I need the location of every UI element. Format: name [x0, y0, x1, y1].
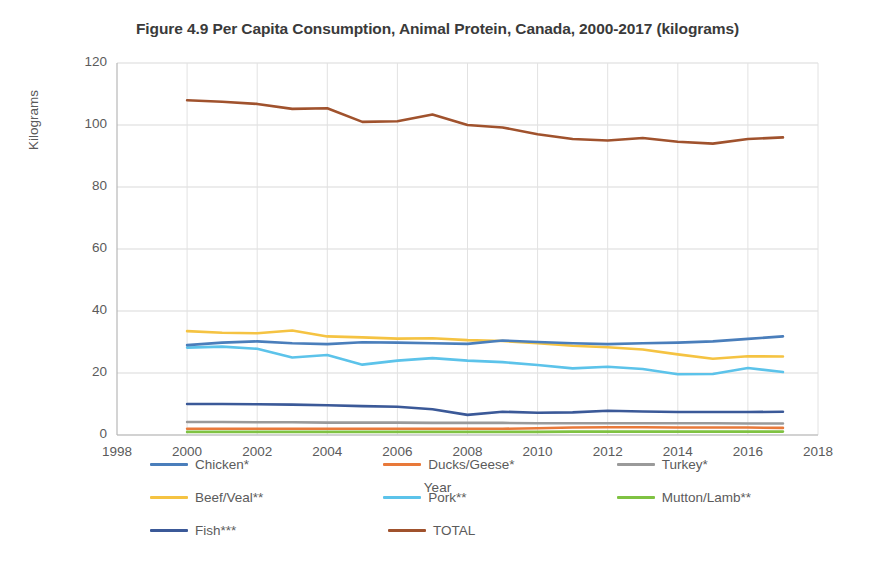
series-line	[187, 427, 783, 429]
y-tick-label: 40	[61, 302, 107, 317]
legend-swatch-icon	[150, 463, 188, 466]
y-tick-label: 120	[61, 54, 107, 69]
legend-item[interactable]: Beef/Veal**	[150, 490, 383, 505]
y-tick-label: 60	[61, 240, 107, 255]
series-line	[187, 404, 783, 415]
legend-swatch-icon	[617, 496, 655, 499]
legend-swatch-icon	[150, 496, 188, 499]
legend-label: TOTAL	[433, 523, 475, 538]
series-line	[187, 347, 783, 375]
y-tick-label: 100	[61, 116, 107, 131]
y-tick-label: 80	[61, 178, 107, 193]
legend-item[interactable]: Ducks/Geese*	[383, 457, 616, 472]
legend-item[interactable]: Fish***	[150, 523, 388, 538]
legend-swatch-icon	[150, 529, 188, 532]
legend-item[interactable]: Chicken*	[150, 457, 383, 472]
legend-label: Fish***	[195, 523, 236, 538]
legend-item[interactable]: Turkey*	[617, 457, 850, 472]
legend-item[interactable]: TOTAL	[388, 523, 626, 538]
legend-row: Beef/Veal**Pork**Mutton/Lamb**	[150, 481, 850, 514]
legend-row: Chicken*Ducks/Geese*Turkey*	[150, 448, 850, 481]
legend-label: Turkey*	[662, 457, 708, 472]
legend-row: Fish***TOTAL	[150, 514, 850, 547]
legend-swatch-icon	[383, 463, 421, 466]
legend-swatch-icon	[617, 463, 655, 466]
legend-swatch-icon	[383, 496, 421, 499]
legend-label: Pork**	[428, 490, 466, 505]
x-tick-label: 1998	[89, 444, 145, 459]
legend-swatch-icon	[388, 529, 426, 532]
legend-label: Mutton/Lamb**	[662, 490, 751, 505]
legend-label: Beef/Veal**	[195, 490, 263, 505]
legend-label: Chicken*	[195, 457, 249, 472]
chart-legend: Chicken*Ducks/Geese*Turkey*Beef/Veal**Po…	[150, 448, 850, 547]
series-line	[187, 100, 783, 143]
legend-item[interactable]: Pork**	[383, 490, 616, 505]
y-tick-label: 20	[61, 364, 107, 379]
legend-item[interactable]: Mutton/Lamb**	[617, 490, 850, 505]
y-tick-label: 0	[61, 426, 107, 441]
legend-label: Ducks/Geese*	[428, 457, 514, 472]
chart-container: Figure 4.9 Per Capita Consumption, Anima…	[0, 0, 875, 567]
series-line	[187, 422, 783, 424]
